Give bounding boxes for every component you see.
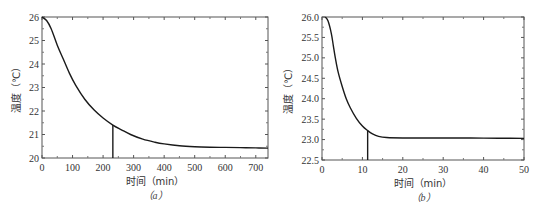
y-tick-label: 24.5 — [302, 73, 320, 84]
x-tick-label: 0 — [320, 164, 325, 175]
panel-caption: （b） — [411, 192, 436, 203]
x-tick-label: 20 — [398, 164, 408, 175]
y-tick-label: 25 — [29, 35, 39, 46]
chart-panel-a: 202122232425260100200300400500600700时间（m… — [0, 0, 270, 215]
x-axis-title: 时间（min） — [126, 175, 185, 187]
x-tick-label: 200 — [96, 162, 111, 173]
x-tick-label: 100 — [65, 162, 80, 173]
y-tick-label: 25.5 — [302, 32, 320, 43]
y-tick-label: 25.0 — [302, 52, 320, 63]
x-tick-label: 300 — [126, 162, 141, 173]
y-tick-label: 23.5 — [302, 114, 320, 125]
y-tick-label: 22 — [29, 106, 39, 117]
x-tick-label: 50 — [519, 164, 529, 175]
chart-panel-b: 22.523.023.524.024.525.025.526.001020304… — [270, 0, 539, 215]
temperature-curve — [325, 17, 524, 138]
x-tick-label: 400 — [157, 162, 172, 173]
x-tick-label: 40 — [479, 164, 489, 175]
temperature-curve — [42, 17, 268, 148]
y-tick-label: 23 — [29, 82, 39, 93]
y-axis-title: 温度（℃） — [10, 62, 22, 113]
y-tick-label: 26.0 — [302, 12, 320, 23]
plot-frame — [42, 17, 268, 158]
x-tick-label: 600 — [218, 162, 233, 173]
y-tick-label: 23.0 — [302, 134, 320, 145]
y-tick-label: 20 — [29, 153, 39, 164]
x-tick-label: 0 — [40, 162, 45, 173]
y-tick-label: 24.0 — [302, 93, 320, 104]
chart-a-canvas: 202122232425260100200300400500600700时间（m… — [0, 0, 270, 215]
x-tick-label: 30 — [438, 164, 448, 175]
y-tick-label: 26 — [29, 12, 39, 23]
y-axis-title: 温度（℃） — [282, 63, 294, 114]
y-tick-label: 21 — [29, 129, 39, 140]
panel-caption: （a） — [143, 190, 168, 201]
y-tick-label: 24 — [29, 59, 39, 70]
x-axis-title: 时间（min） — [394, 177, 453, 189]
x-tick-label: 500 — [187, 162, 202, 173]
y-tick-label: 22.5 — [302, 155, 320, 166]
chart-b-canvas: 22.523.023.524.024.525.025.526.001020304… — [270, 0, 539, 215]
x-tick-label: 10 — [357, 164, 367, 175]
x-tick-label: 700 — [248, 162, 263, 173]
